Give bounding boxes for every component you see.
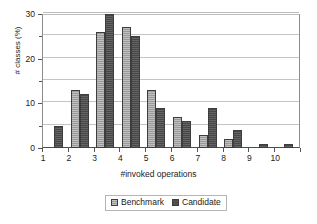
y-axis-label: 10 [0,99,35,108]
legend-entry-benchmark: Benchmark [111,198,164,207]
bar-benchmark-7 [199,135,208,148]
x-axis-tick [94,148,95,152]
bar-group [197,14,223,148]
bar-benchmark-8 [224,139,233,148]
x-axis-label: 1 [31,154,55,163]
x-axis-tick [274,148,275,152]
y-axis-tick-minor [39,81,42,82]
legend-swatch-icon [172,199,179,206]
x-axis-label: 7 [186,154,210,163]
x-axis-tick [145,148,146,152]
bar-group [145,14,171,148]
bar-chart: # classes (%) 0102030 12345678910 #invok… [0,0,317,224]
x-axis-label: 8 [212,154,236,163]
bar-candidate-9 [259,144,268,148]
legend-label: Benchmark [121,198,164,207]
bar-group [69,14,95,148]
chart-legend: BenchmarkCandidate [105,195,227,211]
bar-group [222,14,248,148]
x-axis-title: #invoked operations [0,169,317,179]
bar-group [248,14,274,148]
x-axis-label: 2 [57,154,81,163]
bar-benchmark-5 [147,90,156,148]
y-axis-tick [38,14,42,15]
x-axis-tick [68,148,69,152]
x-axis-tick [223,148,224,152]
legend-label: Candidate [182,198,221,207]
y-axis-tick [38,103,42,104]
x-axis-label: 3 [83,154,107,163]
bar-group [43,14,69,148]
bar-candidate-7 [208,108,217,148]
bar-candidate-5 [156,108,165,148]
bar-candidate-2 [80,94,89,148]
x-axis-label: 6 [160,154,184,163]
bar-candidate-3 [105,14,114,148]
bar-candidate-6 [182,121,191,148]
x-axis-label: 10 [263,154,287,163]
x-axis-tick [119,148,120,152]
x-axis-tick [197,148,198,152]
bar-group [94,14,120,148]
x-axis-tick [248,148,249,152]
y-axis-tick [38,59,42,60]
x-axis-label: 4 [108,154,132,163]
bar-benchmark-6 [173,117,182,148]
x-axis-label: 9 [237,154,261,163]
legend-entry-candidate: Candidate [172,198,221,207]
bar-group [120,14,146,148]
bar-benchmark-4 [122,27,131,148]
bar-candidate-4 [131,36,140,148]
legend-swatch-icon [111,199,118,206]
bar-candidate-10 [284,144,293,148]
x-axis-tick [42,148,43,152]
x-axis-label: 5 [134,154,158,163]
bar-candidate-8 [233,130,242,148]
bars-layer [43,14,299,148]
y-axis-label: 20 [0,55,35,64]
bar-group [273,14,299,148]
y-axis-label: 30 [0,10,35,19]
bar-benchmark-2 [71,90,80,148]
y-axis-tick-minor [39,36,42,37]
y-axis-label: 0 [0,144,35,153]
x-axis-tick [171,148,172,152]
gridline [43,12,299,13]
bar-candidate-1 [54,126,63,148]
x-axis-tick [300,148,301,152]
y-axis-tick-minor [39,126,42,127]
bar-group [171,14,197,148]
bar-benchmark-3 [96,32,105,148]
